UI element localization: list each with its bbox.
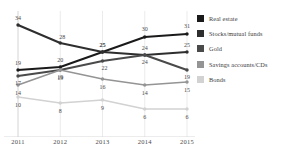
chart-legend: Real estateStocks/mutual fundsGoldSaving… — [197, 11, 290, 87]
data-label: 25 — [99, 42, 105, 48]
data-label: 17 — [15, 80, 21, 86]
data-label: 24 — [142, 59, 148, 65]
legend-label: Savings accounts/CDs — [209, 61, 268, 68]
data-label: 19 — [57, 75, 63, 81]
line-chart-svg — [0, 9, 196, 137]
data-point — [59, 65, 62, 68]
data-label: 8 — [59, 108, 62, 114]
data-label: 6 — [143, 114, 146, 120]
data-point — [185, 32, 188, 35]
x-axis-label-2013: 2013 — [96, 138, 110, 145]
data-point — [59, 41, 62, 44]
data-label: 14 — [15, 90, 21, 96]
data-label: 19 — [15, 60, 21, 66]
data-label: 24 — [142, 45, 148, 51]
data-label: 6 — [185, 114, 188, 120]
data-label: 19 — [184, 74, 190, 80]
x-axis-label-2015: 2015 — [180, 138, 194, 145]
data-point — [101, 77, 104, 80]
legend-item-savings-accounts-cds[interactable]: Savings accounts/CDs — [197, 57, 290, 72]
legend-swatch-icon — [197, 30, 204, 37]
data-point — [16, 68, 19, 71]
data-point — [16, 74, 19, 77]
legend-label: Real estate — [209, 15, 238, 22]
data-point — [59, 68, 62, 71]
data-label: 30 — [142, 26, 148, 32]
chart-canvas: 1920253031342825242517192224191419161415… — [0, 0, 290, 160]
legend-swatch-icon — [197, 45, 204, 52]
data-point — [143, 53, 146, 56]
data-label: 28 — [59, 34, 65, 40]
legend-label: Stocks/mutual funds — [209, 30, 263, 37]
data-label: 20 — [57, 57, 63, 63]
data-point — [143, 83, 146, 86]
data-point — [101, 59, 104, 62]
cropped-title-strip — [0, 0, 290, 9]
data-label: 22 — [101, 65, 107, 71]
data-label: 25 — [184, 42, 190, 48]
data-point — [101, 50, 104, 53]
legend-swatch-icon — [197, 61, 204, 68]
data-label: 31 — [184, 23, 190, 29]
legend-swatch-icon — [197, 76, 204, 83]
data-point — [185, 68, 188, 71]
data-point — [185, 80, 188, 83]
data-label: 34 — [15, 15, 21, 21]
x-axis-label-2012: 2012 — [53, 138, 67, 145]
x-axis-label-2014: 2014 — [138, 138, 152, 145]
data-label: 10 — [15, 102, 21, 108]
data-point — [16, 23, 19, 26]
legend-swatch-icon — [197, 15, 204, 22]
x-axis-labels: 20112012201320142015 — [0, 137, 196, 151]
x-axis-label-2011: 2011 — [11, 138, 25, 145]
data-point — [185, 107, 188, 110]
data-label: 16 — [99, 84, 105, 90]
legend-item-stocks-mutual-funds[interactable]: Stocks/mutual funds — [197, 26, 290, 41]
data-point — [101, 98, 104, 101]
data-label: 9 — [101, 105, 104, 111]
data-label: 14 — [142, 90, 148, 96]
legend-item-gold[interactable]: Gold — [197, 41, 290, 56]
legend-label: Bonds — [209, 76, 226, 83]
legend-item-real-estate[interactable]: Real estate — [197, 11, 290, 26]
data-point — [143, 35, 146, 38]
data-point — [59, 101, 62, 104]
data-point — [143, 107, 146, 110]
legend-item-bonds[interactable]: Bonds — [197, 72, 290, 87]
data-point — [185, 50, 188, 53]
legend-label: Gold — [209, 45, 222, 52]
data-label: 15 — [184, 87, 190, 93]
plot-area: 1920253031342825242517192224191419161415… — [0, 9, 196, 137]
